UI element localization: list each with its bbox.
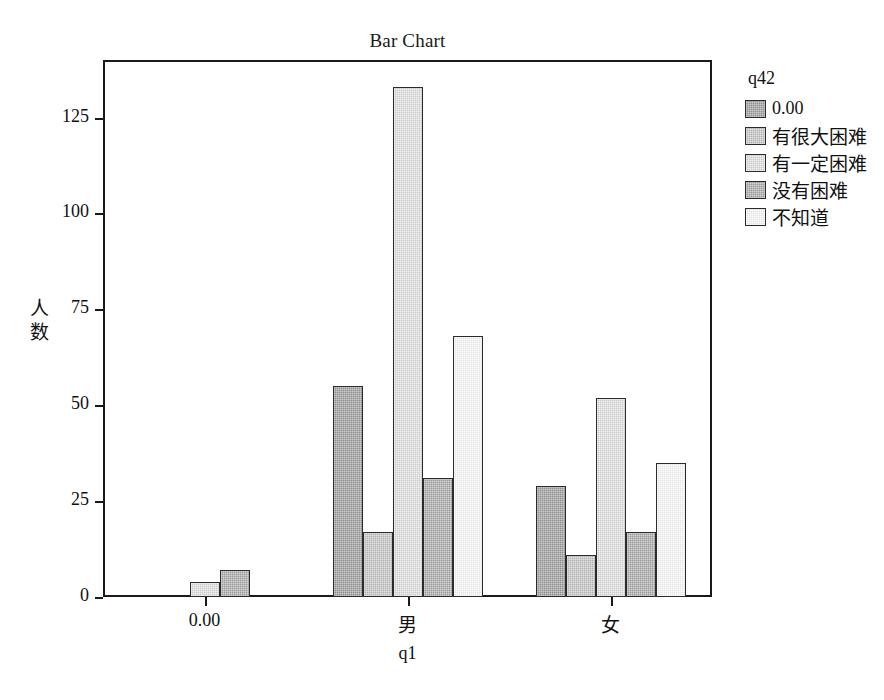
legend-label: 不知道 bbox=[772, 203, 829, 230]
bar-chart: Bar Chart 人数 0255075100125 0.00男女 q1 q42… bbox=[0, 0, 884, 700]
bar bbox=[656, 463, 686, 597]
legend-swatch bbox=[745, 154, 766, 172]
bar bbox=[393, 87, 423, 597]
x-tick-mark bbox=[611, 597, 613, 606]
y-tick-label: 75 bbox=[71, 297, 89, 318]
y-tick-mark bbox=[95, 118, 103, 120]
chart-title: Bar Chart bbox=[103, 30, 712, 52]
y-tick-mark bbox=[95, 213, 103, 215]
legend-item: 不知道 bbox=[745, 203, 880, 230]
x-tick-mark bbox=[205, 597, 207, 606]
y-tick-mark bbox=[95, 405, 103, 407]
legend-swatch bbox=[745, 181, 766, 199]
y-tick-mark bbox=[95, 501, 103, 503]
y-tick-label: 50 bbox=[71, 393, 89, 414]
y-axis-title: 人数 bbox=[26, 296, 52, 344]
bar bbox=[566, 555, 596, 597]
y-tick-mark bbox=[95, 309, 103, 311]
legend-item: 没有困难 bbox=[745, 176, 880, 203]
bar bbox=[626, 532, 656, 597]
x-tick-label: 0.00 bbox=[189, 610, 221, 631]
legend-swatch bbox=[745, 208, 766, 226]
y-tick-label: 100 bbox=[62, 201, 89, 222]
bar bbox=[190, 582, 220, 597]
legend-swatch bbox=[745, 127, 766, 145]
y-tick-label: 0 bbox=[80, 585, 89, 606]
bar bbox=[333, 386, 363, 597]
legend: q42 0.00有很大困难有一定困难没有困难不知道 bbox=[745, 68, 880, 230]
bar bbox=[596, 398, 626, 597]
y-tick-label: 25 bbox=[71, 489, 89, 510]
bar bbox=[536, 486, 566, 597]
x-tick-label: 女 bbox=[601, 610, 620, 637]
y-tick-label: 125 bbox=[62, 106, 89, 127]
x-tick-label: 男 bbox=[398, 610, 417, 637]
legend-title: q42 bbox=[748, 68, 880, 89]
y-tick-mark bbox=[95, 597, 103, 599]
bar bbox=[220, 570, 250, 597]
bar bbox=[423, 478, 453, 597]
legend-swatch bbox=[745, 100, 766, 118]
legend-label: 0.00 bbox=[772, 98, 804, 119]
legend-item: 有很大困难 bbox=[745, 122, 880, 149]
legend-label: 有很大困难 bbox=[772, 122, 867, 149]
legend-label: 有一定困难 bbox=[772, 149, 867, 176]
bar bbox=[453, 336, 483, 597]
bar bbox=[363, 532, 393, 597]
x-tick-mark bbox=[408, 597, 410, 606]
legend-item: 0.00 bbox=[745, 95, 880, 122]
legend-item: 有一定困难 bbox=[745, 149, 880, 176]
legend-label: 没有困难 bbox=[772, 176, 848, 203]
x-axis-title: q1 bbox=[399, 643, 417, 664]
